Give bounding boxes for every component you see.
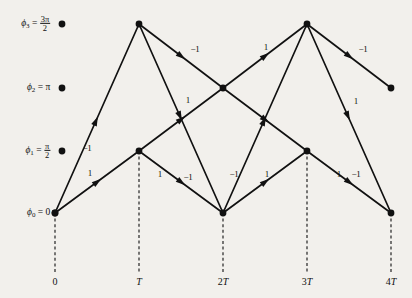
phase-label-spacer-phi3 [50, 18, 55, 28]
edge-weight-label-e1: −1 [82, 143, 91, 153]
phase-axis-label-phi1: ϕ1 = π2 [25, 142, 55, 160]
edge-weight-label-e11: −1 [358, 44, 367, 54]
edge-weight-label-e9: 1 [158, 169, 162, 179]
phase-label-spacer-phi0 [50, 207, 55, 217]
time-axis-label-t0: 0 [53, 276, 58, 287]
trellis-node-n_T_phi3[interactable] [136, 21, 143, 28]
phase-label-spacer-phi1 [50, 145, 55, 155]
phase-axis-label-phi3: ϕ3 = 3π2 [21, 15, 55, 33]
trellis-nodes-group [52, 21, 395, 217]
phase-value-denominator-phi1: 2 [44, 150, 50, 160]
time-base-t3: T [307, 276, 313, 287]
trellis-node-n_T_phi1[interactable] [136, 148, 143, 155]
time-base-t4: T [391, 276, 397, 287]
edge-weight-label-e12: 1 [337, 169, 341, 179]
arrowhead-e12 [343, 111, 350, 121]
edge-weight-label-e8: 1 [354, 96, 358, 106]
trellis-edges-group [55, 24, 391, 213]
edge-weight-label-e6: −1 [183, 172, 192, 182]
time-axis-label-t1: T [136, 276, 142, 287]
trellis-node-n_3T_phi1[interactable] [304, 148, 311, 155]
time-axis-label-t3: 3T [302, 276, 313, 287]
dot-phi1 [59, 148, 66, 155]
phase-equals-phi3: = [30, 18, 40, 28]
edge-weight-label-e2: 1 [88, 168, 92, 178]
phase-value-numerator-phi3: 3π [40, 14, 51, 23]
phase-axis-label-phi0: ϕ0 = 0 [27, 207, 55, 219]
edge-weight-label-e10: 1 [265, 169, 269, 179]
trellis-figure: ϕ3 = 3π2 ϕ2 = π ϕ1 = π2 ϕ0 = 0 0T2T3T4T−… [0, 0, 412, 298]
time-base-t2: T [223, 276, 229, 287]
trellis-node-n_4T_phi2[interactable] [388, 85, 395, 92]
edge-weight-label-e13: −1 [351, 169, 360, 179]
edge-weight-label-e7: 1 [264, 42, 268, 52]
phase-label-spacer-phi2 [50, 82, 55, 92]
edge-arrowheads-group [91, 51, 353, 187]
dot-phi3 [59, 21, 66, 28]
trellis-canvas [0, 0, 412, 298]
phase-axis-label-phi2: ϕ2 = π [27, 82, 55, 94]
trellis-node-n_4T_phi0[interactable] [388, 210, 395, 217]
phase-value-numerator-phi1: π [44, 141, 50, 150]
trellis-node-n_2T_phi0[interactable] [220, 210, 227, 217]
edge-weight-label-e5: 1 [186, 95, 190, 105]
arrowhead-e1 [91, 116, 98, 126]
time-axis-label-t2: 2T [218, 276, 229, 287]
phase-value-phi3: 3π2 [40, 14, 51, 32]
phase-value-phi1: π2 [44, 141, 50, 159]
edge-weight-label-e3: −1 [190, 44, 199, 54]
phase-equals-phi0: = [35, 207, 45, 217]
trellis-node-n_2T_phi2[interactable] [220, 85, 227, 92]
phase-equals-phi2: = [35, 82, 45, 92]
edge-weight-label-e4: −1 [229, 169, 238, 179]
phase-axis-dots-group [52, 21, 66, 217]
phase-equals-phi1: = [34, 145, 44, 155]
trellis-node-n_3T_phi3[interactable] [304, 21, 311, 28]
dot-phi2 [59, 85, 66, 92]
phase-value-denominator-phi3: 2 [40, 23, 51, 33]
time-axis-label-t4: 4T [386, 276, 397, 287]
